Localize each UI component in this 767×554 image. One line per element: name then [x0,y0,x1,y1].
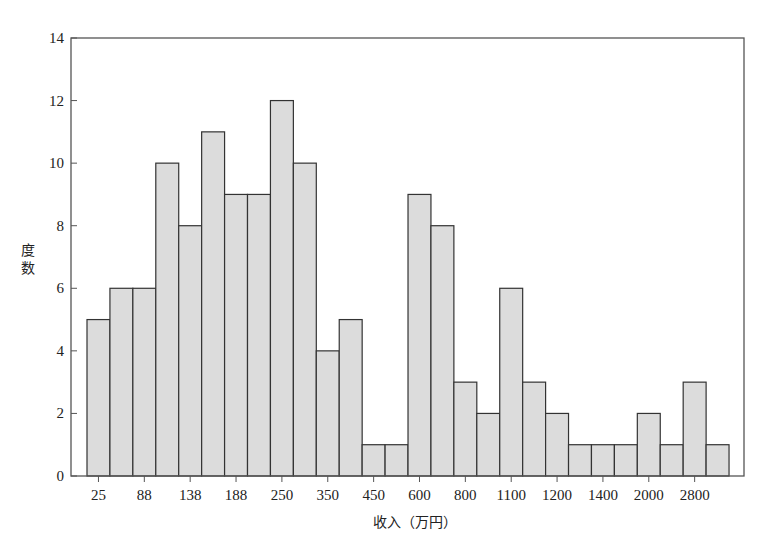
x-tick-label: 138 [179,487,202,503]
histogram-bar [660,445,683,476]
histogram-bar [293,163,316,476]
histogram-bar [591,445,614,476]
y-tick-label: 12 [49,93,64,109]
x-tick-label: 188 [225,487,248,503]
y-tick-label: 6 [57,280,65,296]
histogram-bar [706,445,729,476]
histogram-chart: 02468101214 2588138188250350450600800110… [0,0,767,554]
histogram-bar [477,413,500,476]
y-axis-title-line1: 度 [21,242,35,258]
x-axis: 2588138188250350450600800110012001400200… [91,476,710,503]
histogram-bar [454,382,477,476]
y-tick-label: 8 [57,218,65,234]
x-tick-label: 800 [454,487,477,503]
histogram-bar [569,445,592,476]
y-tick-label: 4 [57,343,65,359]
histogram-bar [133,288,156,476]
histogram-bar [362,445,385,476]
x-tick-label: 88 [137,487,152,503]
bars-group [87,101,729,476]
y-tick-label: 0 [57,468,65,484]
histogram-bar [202,132,225,476]
histogram-bar [156,163,179,476]
histogram-bar [408,194,431,476]
x-axis-title: 收入（万円） [373,514,457,530]
y-tick-label: 10 [49,155,64,171]
x-tick-label: 25 [91,487,106,503]
x-tick-label: 1100 [496,487,525,503]
histogram-bar [179,226,202,476]
histogram-bar [248,194,271,476]
y-tick-label: 14 [49,30,65,46]
histogram-bar [316,351,339,476]
y-tick-label: 2 [57,405,65,421]
y-axis: 02468101214 [49,30,77,484]
histogram-bar [87,320,110,476]
histogram-bar [110,288,133,476]
x-tick-label: 350 [317,487,340,503]
x-tick-label: 600 [408,487,431,503]
histogram-bar [614,445,637,476]
histogram-bar [270,101,293,476]
x-tick-label: 1400 [588,487,618,503]
x-tick-label: 2800 [680,487,710,503]
histogram-bar [339,320,362,476]
histogram-bar [431,226,454,476]
histogram-bar [546,413,569,476]
histogram-bar [385,445,408,476]
histogram-bar [225,194,248,476]
x-tick-label: 1200 [542,487,572,503]
x-tick-label: 2000 [634,487,664,503]
histogram-bar [523,382,546,476]
histogram-bar [683,382,706,476]
x-tick-label: 450 [362,487,385,503]
y-axis-title-line2: 数 [21,260,35,276]
histogram-bar [500,288,523,476]
x-tick-label: 250 [271,487,294,503]
histogram-bar [637,413,660,476]
